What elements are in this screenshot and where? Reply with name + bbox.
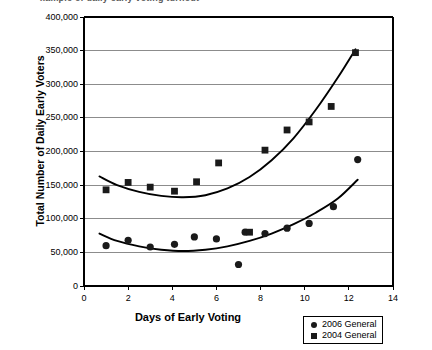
square-marker-icon: [308, 327, 319, 345]
x-tick-label: 4: [160, 294, 184, 303]
legend-item-label: 2006 General: [322, 320, 377, 329]
x-tick-label: 6: [204, 294, 228, 303]
chart-container: xample of daily early voting turnout Tot…: [0, 0, 432, 350]
x-axis-tick-labels: 02468101214: [0, 0, 432, 350]
x-tick-label: 10: [293, 294, 317, 303]
x-tick-label: 12: [337, 294, 361, 303]
x-tick-label: 14: [381, 294, 405, 303]
x-tick-label: 8: [249, 294, 273, 303]
legend-item-label: 2004 General: [322, 331, 377, 340]
x-axis-title: Days of Early Voting: [83, 311, 293, 323]
legend-item-2004-general: 2004 General: [308, 330, 377, 341]
chart-legend: 2006 General 2004 General: [303, 316, 383, 344]
x-tick-label: 0: [72, 294, 96, 303]
x-tick-label: 2: [116, 294, 140, 303]
